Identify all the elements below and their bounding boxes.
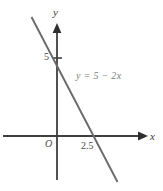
- y-axis-arrowhead: [53, 23, 62, 33]
- function-line: [32, 17, 118, 182]
- coordinate-plane-svg: [0, 0, 163, 191]
- line-equation-annotation: y = 5 − 2x: [76, 71, 121, 81]
- x-axis-label: x: [150, 131, 155, 142]
- y-axis-label: y: [53, 7, 58, 18]
- graph-figure: y x 5 2.5 O y = 5 − 2x: [0, 0, 163, 191]
- origin-label: O: [45, 139, 52, 149]
- x-intercept-tick-label: 2.5: [81, 141, 94, 151]
- x-axis-arrowhead: [138, 132, 148, 141]
- y-intercept-tick-label: 5: [44, 52, 49, 62]
